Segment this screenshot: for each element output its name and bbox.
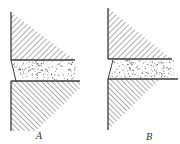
stipple-dot [21,65,22,66]
stipple-dot [23,77,24,78]
stipple-dot [163,62,164,63]
stipple-dot [129,60,130,61]
stipple-dot [62,74,63,75]
stipple-dot [166,62,167,63]
stipple-dot [130,70,131,71]
stipple-dot [151,69,152,70]
stipple-dot [110,76,111,77]
stipple-dot [64,78,65,79]
dotted-interlayer [13,61,75,80]
stipple-dot [45,73,46,74]
stipple-dot [159,74,160,75]
stipple-dot [142,72,143,73]
stipple-dot [162,74,163,75]
stipple-dot [58,75,59,76]
stipple-dot [32,68,33,69]
stipple-dot [130,68,131,69]
stipple-dot [24,69,25,70]
stipple-dot [39,64,40,65]
stipple-dot [117,63,118,64]
stipple-dot [114,61,115,62]
stipple-dot [52,67,53,68]
stipple-dot [73,73,74,74]
stipple-dot [169,62,170,63]
stipple-dot [151,73,152,74]
stipple-dot [112,76,113,77]
stipple-dot [23,64,24,65]
stipple-dot [58,73,59,74]
stipple-dot [37,63,38,64]
stipple-dot [116,68,117,69]
stipple-dot [161,69,162,70]
stipple-dot [17,65,18,66]
stipple-dot [35,71,36,72]
stipple-dot [49,70,50,71]
stipple-dot [23,73,24,74]
stipple-dot [38,72,39,73]
stipple-dot [145,62,146,63]
stipple-dot [62,61,63,62]
stipple-dot [43,63,44,64]
stipple-dot [39,66,40,67]
stipple-dot [38,65,39,66]
stipple-dot [161,76,162,77]
stipple-dot [137,69,138,70]
stipple-dot [151,61,152,62]
stipple-dot [67,79,68,80]
stipple-dot [128,73,129,74]
stipple-dot [70,70,71,71]
stipple-dot [167,77,168,78]
stipple-dot [127,60,128,61]
stipple-dot [52,61,53,62]
stipple-dot [144,76,145,77]
upper-hatched-region [90,0,180,144]
stipple-dot [114,62,115,63]
stipple-dot [122,64,123,65]
stipple-dot [41,63,42,64]
stipple-dot [168,73,169,74]
stipple-dot [34,71,35,72]
stipple-dot [33,61,34,62]
stipple-dot [70,63,71,64]
stipple-dot [163,73,164,74]
stipple-dot [23,63,24,64]
stipple-dot [115,76,116,77]
stipple-dot [156,65,157,66]
stipple-dot [27,76,28,77]
stipple-dot [40,70,41,71]
stipple-dot [29,70,30,71]
stipple-dot [121,76,122,77]
stipple-dot [34,63,35,64]
stipple-dot [44,77,45,78]
stipple-dot [22,64,23,65]
stipple-dot [139,60,140,61]
stipple-dot [119,72,120,73]
stipple-dot [74,69,75,70]
stipple-dot [123,64,124,65]
stipple-dot [67,76,68,77]
stipple-dot [16,67,17,68]
stipple-dot [29,67,30,68]
stipple-dot [162,60,163,61]
stipple-dot [31,74,32,75]
stipple-dot [45,71,46,72]
stipple-dot [61,66,62,67]
stipple-dot [58,64,59,65]
stipple-dot [139,68,140,69]
stipple-dot [117,76,118,77]
stipple-dot [114,71,115,72]
stipple-dot [46,69,47,70]
stipple-dot [43,61,44,62]
stipple-dot [41,65,42,66]
stipple-dot [144,66,145,67]
stipple-dot [47,70,48,71]
diagram-canvas: A B [0,0,180,144]
stipple-dot [117,73,118,74]
stipple-dot [137,66,138,67]
stipple-dot [163,65,164,66]
stipple-dot [132,62,133,63]
stipple-dot [39,72,40,73]
stipple-dot [126,60,127,61]
stipple-dot [36,66,37,67]
stipple-dot [39,72,40,73]
